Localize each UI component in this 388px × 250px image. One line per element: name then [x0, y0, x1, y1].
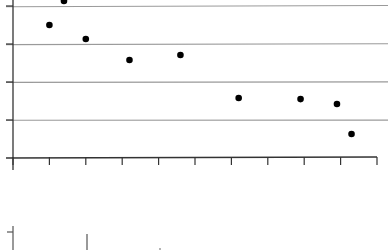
gridline [6, 82, 388, 83]
axes [6, 0, 377, 170]
second-chart-partial [7, 226, 161, 250]
data-point [297, 96, 304, 103]
data-point [334, 101, 341, 108]
data-point [61, 0, 68, 4]
gridline [6, 44, 388, 45]
data-point [126, 57, 133, 64]
gridline [6, 6, 388, 7]
data-point [348, 131, 355, 138]
scatter-chart [0, 0, 388, 250]
data-point [177, 52, 184, 59]
data-points [46, 0, 355, 137]
data-point [46, 22, 53, 29]
x-axis [6, 157, 377, 158]
data-point [235, 95, 242, 102]
data-point [83, 36, 90, 43]
gridlines [6, 6, 388, 121]
